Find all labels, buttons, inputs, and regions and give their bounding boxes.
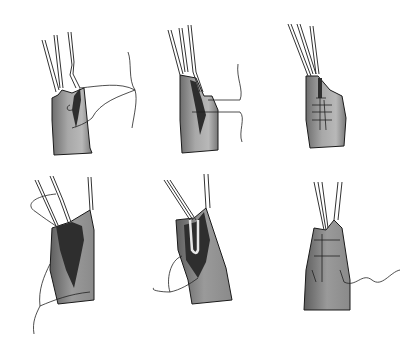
panel-2 xyxy=(168,25,242,153)
panel-3 xyxy=(288,24,346,148)
panel-1 xyxy=(42,32,136,155)
panel-6 xyxy=(304,182,400,310)
panel-4 xyxy=(31,176,94,334)
surgical-figure xyxy=(0,0,419,356)
panel-5 xyxy=(153,174,232,304)
